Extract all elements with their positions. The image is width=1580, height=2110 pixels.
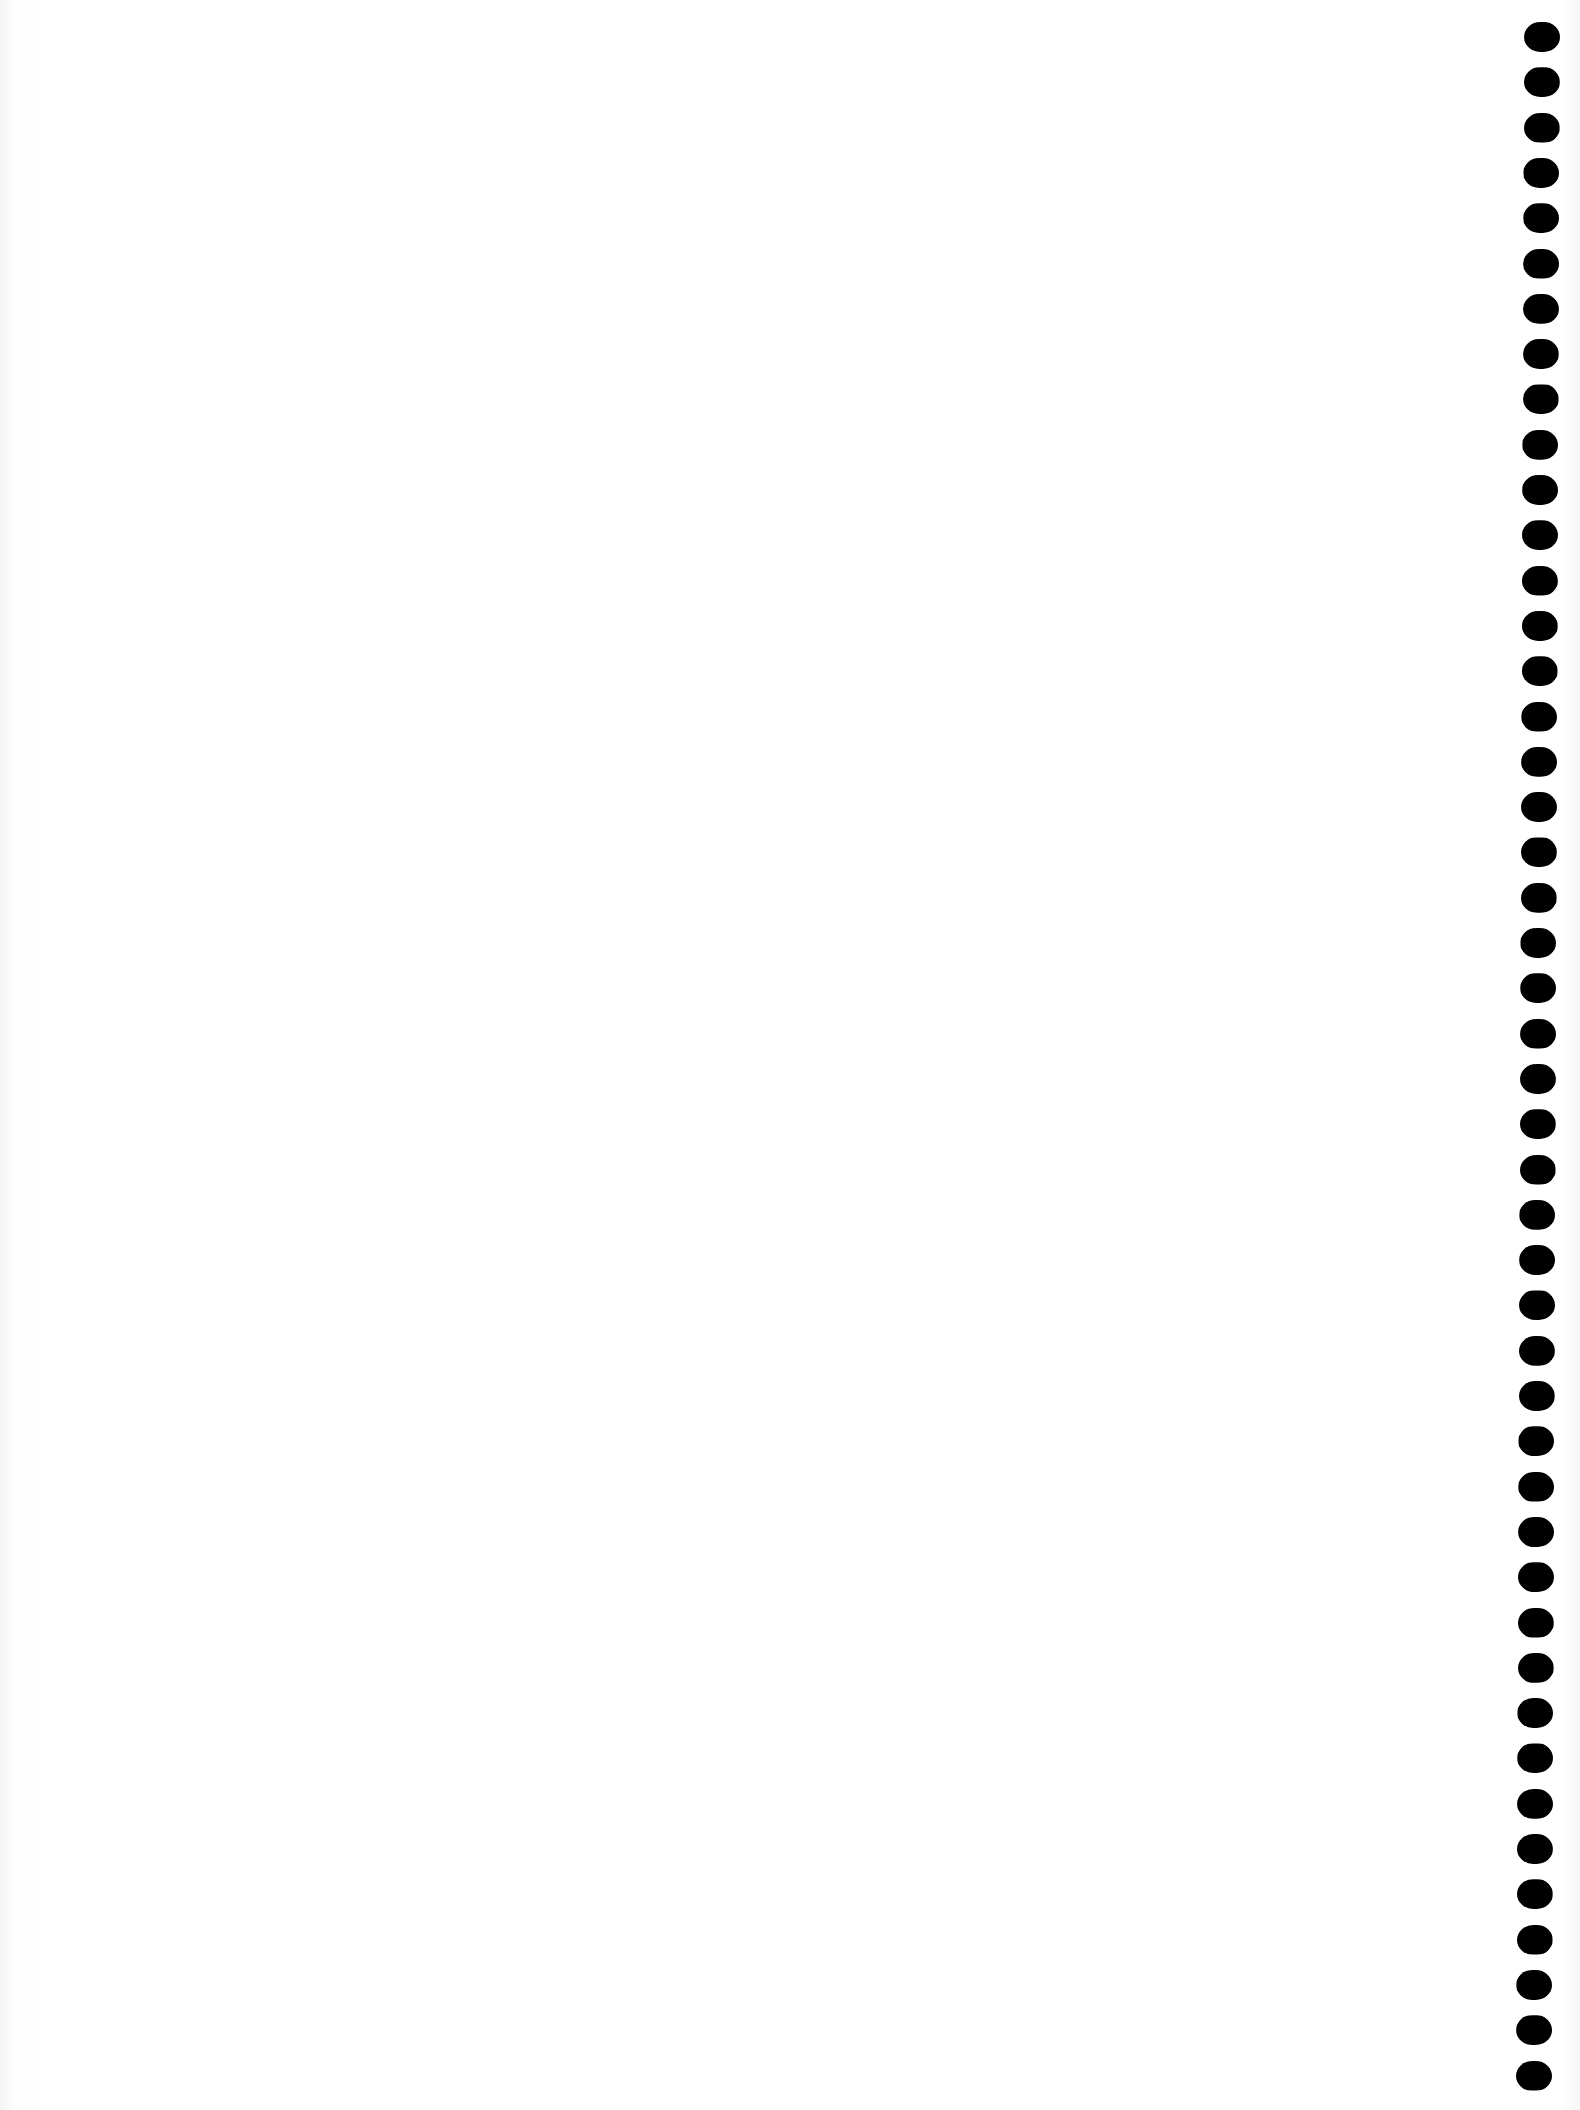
punch-hole	[1521, 702, 1557, 732]
punch-hole	[1517, 1789, 1553, 1819]
punch-hole	[1522, 656, 1558, 686]
punch-hole	[1519, 1381, 1555, 1411]
punch-hole	[1519, 1200, 1555, 1230]
punch-hole	[1517, 1879, 1553, 1909]
punch-hole	[1521, 747, 1557, 777]
punch-hole	[1518, 1472, 1554, 1502]
punch-hole	[1517, 1925, 1553, 1955]
punch-hole	[1520, 973, 1556, 1003]
punch-hole	[1522, 611, 1558, 641]
punch-hole	[1523, 384, 1559, 414]
punch-hole	[1519, 1245, 1555, 1275]
punch-hole	[1523, 294, 1559, 324]
punch-hole	[1523, 339, 1559, 369]
punch-hole	[1518, 1517, 1554, 1547]
punch-hole-column	[1480, 0, 1580, 2110]
punch-hole	[1518, 1608, 1554, 1638]
blank-page	[0, 0, 1580, 2110]
punch-hole	[1522, 475, 1558, 505]
punch-hole	[1518, 1653, 1554, 1683]
punch-hole	[1519, 1336, 1555, 1366]
punch-hole	[1517, 1698, 1553, 1728]
punch-hole	[1517, 1834, 1553, 1864]
punch-hole	[1521, 837, 1557, 867]
punch-hole	[1524, 67, 1560, 97]
punch-hole	[1523, 249, 1559, 279]
punch-hole	[1520, 1019, 1556, 1049]
punch-hole	[1522, 520, 1558, 550]
punch-hole	[1518, 1562, 1554, 1592]
punch-hole	[1524, 22, 1560, 52]
punch-hole	[1524, 113, 1560, 143]
punch-hole	[1520, 1155, 1556, 1185]
punch-hole	[1516, 2015, 1552, 2045]
punch-hole	[1519, 1290, 1555, 1320]
punch-hole	[1523, 158, 1559, 188]
punch-hole	[1521, 792, 1557, 822]
punch-hole	[1517, 1743, 1553, 1773]
punch-hole	[1516, 1970, 1552, 2000]
punch-hole	[1516, 2061, 1552, 2091]
punch-hole	[1520, 1064, 1556, 1094]
punch-hole	[1520, 1109, 1556, 1139]
punch-hole	[1518, 1426, 1554, 1456]
punch-hole	[1522, 430, 1558, 460]
punch-hole	[1523, 203, 1559, 233]
punch-hole	[1522, 566, 1558, 596]
punch-hole	[1520, 928, 1556, 958]
punch-hole	[1521, 883, 1557, 913]
